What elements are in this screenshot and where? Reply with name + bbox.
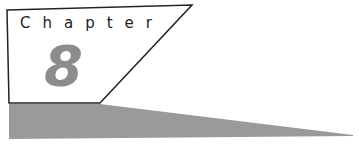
chapter-label: Chapter [20,14,164,32]
chapter-number: 8 [44,38,83,94]
gray-wedge-shape [9,104,353,139]
